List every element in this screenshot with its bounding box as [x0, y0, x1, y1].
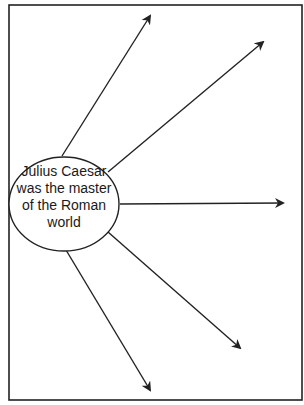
center-topic-text: Julius Caesar was the master of the Roma…: [9, 163, 119, 231]
arrow-1-line: [62, 16, 150, 156]
arrow-3-line: [120, 203, 283, 204]
center-line-1: Julius Caesar: [9, 163, 119, 180]
arrow-2-line: [108, 42, 263, 172]
arrow-5-line: [66, 250, 150, 390]
center-line-2: was the master: [9, 180, 119, 197]
center-line-3: of the Roman: [9, 197, 119, 214]
arrow-4-line: [108, 232, 240, 348]
center-line-4: world: [9, 214, 119, 231]
